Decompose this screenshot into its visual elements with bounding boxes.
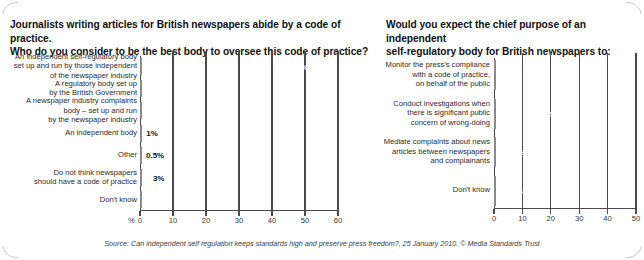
category-label-line: Monitor the press's compliance bbox=[380, 60, 490, 69]
bar bbox=[140, 125, 143, 142]
x-axis-tick-label: 10 bbox=[518, 214, 526, 223]
bar-value-label: 19% bbox=[183, 195, 199, 204]
right-panel: Would you expect the chief purpose of an… bbox=[376, 0, 644, 236]
category-label-line: set up and run by those independent bbox=[3, 61, 137, 70]
x-axis-tick-label: 0 bbox=[492, 214, 496, 223]
axis-tick-top bbox=[607, 53, 608, 58]
bar-value-label: 0.5% bbox=[146, 151, 164, 160]
category-label: A regulatory body set upby the British G… bbox=[3, 79, 137, 98]
category-label-line: A newspaper industry complaints bbox=[3, 96, 137, 105]
category-label-line: by the newspaper industry bbox=[3, 115, 137, 124]
category-label: Do not think newspapersshould have a cod… bbox=[3, 168, 137, 187]
category-label-line: there is significant public bbox=[380, 108, 490, 117]
category-label-line: body – set up and run bbox=[3, 106, 137, 115]
bar bbox=[140, 58, 312, 75]
bar-fill bbox=[140, 191, 142, 208]
category-label-line: on behalf of the public bbox=[380, 79, 490, 88]
bar-fill bbox=[494, 60, 496, 90]
bar-fill bbox=[140, 147, 142, 164]
category-label: Conduct investigations whenthere is sign… bbox=[380, 99, 490, 127]
x-axis-tick-label: 20 bbox=[202, 216, 210, 225]
bar-value-label: 12% bbox=[508, 148, 524, 157]
gridline bbox=[635, 58, 636, 209]
x-axis-tick-label: 30 bbox=[235, 216, 243, 225]
category-label: Don't know bbox=[380, 185, 490, 194]
category-label: Don't know bbox=[3, 195, 137, 204]
category-label-line: concern of wrong-doing bbox=[380, 118, 490, 127]
gridline bbox=[238, 56, 239, 211]
right-title-line-2: self-regulatory body for British newspap… bbox=[386, 45, 638, 59]
bar-value-label: 8% bbox=[151, 106, 163, 115]
category-label: An independent body bbox=[3, 128, 137, 137]
x-axis-tick-label: 40 bbox=[268, 216, 276, 225]
x-axis-tick-label: 50 bbox=[632, 214, 640, 223]
category-label: Mediate complaints about newsarticles be… bbox=[380, 137, 490, 165]
bar-fill bbox=[140, 102, 142, 119]
x-axis-tick-label: 20 bbox=[547, 214, 555, 223]
source-note: Source: Can independent self regulation … bbox=[0, 239, 644, 248]
category-label: An independent self-regulatory bodyset u… bbox=[3, 52, 137, 80]
axis-tick-top bbox=[337, 51, 338, 56]
bar-fill bbox=[494, 99, 496, 129]
x-axis-tick-label: 30 bbox=[575, 214, 583, 223]
x-axis-tick-label: 0 bbox=[138, 216, 142, 225]
axis-tick-top bbox=[238, 51, 239, 56]
gridline bbox=[205, 56, 206, 211]
x-axis-tick-label: 10 bbox=[169, 216, 177, 225]
category-label-line: Do not think newspapers bbox=[3, 168, 137, 177]
x-axis-tick-label: 50 bbox=[301, 216, 309, 225]
bar-fill bbox=[140, 169, 142, 186]
left-title-line-1: Journalists writing articles for British… bbox=[10, 18, 370, 45]
bar-value-label: 48% bbox=[610, 71, 626, 80]
gridline bbox=[304, 56, 305, 211]
category-label-line: Don't know bbox=[380, 185, 490, 194]
bar-fill bbox=[140, 80, 142, 97]
category-label-line: Mediate complaints about news bbox=[380, 137, 490, 146]
bar-value-label: 3% bbox=[153, 173, 165, 182]
bar-value-label: 1% bbox=[146, 129, 158, 138]
axis-tick-top bbox=[635, 53, 636, 58]
bar bbox=[140, 169, 150, 186]
bar-value-label: 25% bbox=[545, 109, 561, 118]
category-label-line: articles between newspapers bbox=[380, 147, 490, 156]
axis-tick-top bbox=[579, 53, 580, 58]
bar-fill bbox=[140, 58, 142, 75]
category-label-line: A regulatory body set up bbox=[3, 79, 137, 88]
left-panel: Journalists writing articles for British… bbox=[0, 0, 376, 236]
category-label: Other bbox=[3, 150, 137, 159]
right-question-title: Would you expect the chief purpose of an… bbox=[386, 18, 638, 59]
gridline bbox=[271, 56, 272, 211]
bar-fill bbox=[140, 125, 142, 142]
x-axis-unit-label: % bbox=[128, 216, 135, 225]
category-label: Monitor the press's compliancewith a cod… bbox=[380, 60, 490, 88]
gridline bbox=[337, 56, 338, 211]
x-axis-tick-label: 40 bbox=[603, 214, 611, 223]
axis-tick-top bbox=[550, 53, 551, 58]
category-label-line: An independent self-regulatory body bbox=[3, 52, 137, 61]
category-label-line: Don't know bbox=[3, 195, 137, 204]
axis-tick-top bbox=[271, 51, 272, 56]
category-label-line: Other bbox=[3, 150, 137, 159]
axis-tick-top bbox=[304, 51, 305, 56]
category-label-line: and complainants bbox=[380, 156, 490, 165]
infographic-page: Journalists writing articles for British… bbox=[0, 0, 644, 260]
category-label-line: should have a code of practice bbox=[3, 177, 137, 186]
category-label-line: Conduct investigations when bbox=[380, 99, 490, 108]
bar-value-label: 14% bbox=[514, 186, 530, 195]
axis-tick-top bbox=[522, 53, 523, 58]
category-label-line: An independent body bbox=[3, 128, 137, 137]
bar-fill bbox=[494, 176, 496, 206]
category-label: A newspaper industry complaintsbody – se… bbox=[3, 96, 137, 124]
x-axis-tick-label: 60 bbox=[334, 216, 342, 225]
axis-tick-top bbox=[172, 51, 173, 56]
bar-value-label: 17% bbox=[176, 84, 192, 93]
bar bbox=[140, 147, 143, 164]
category-label-line: with a code of practice, bbox=[380, 70, 490, 79]
bar-value-label: 52% bbox=[292, 62, 308, 71]
bar-fill bbox=[494, 137, 496, 167]
axis-tick-top bbox=[205, 51, 206, 56]
right-title-line-1: Would you expect the chief purpose of an… bbox=[386, 18, 638, 45]
